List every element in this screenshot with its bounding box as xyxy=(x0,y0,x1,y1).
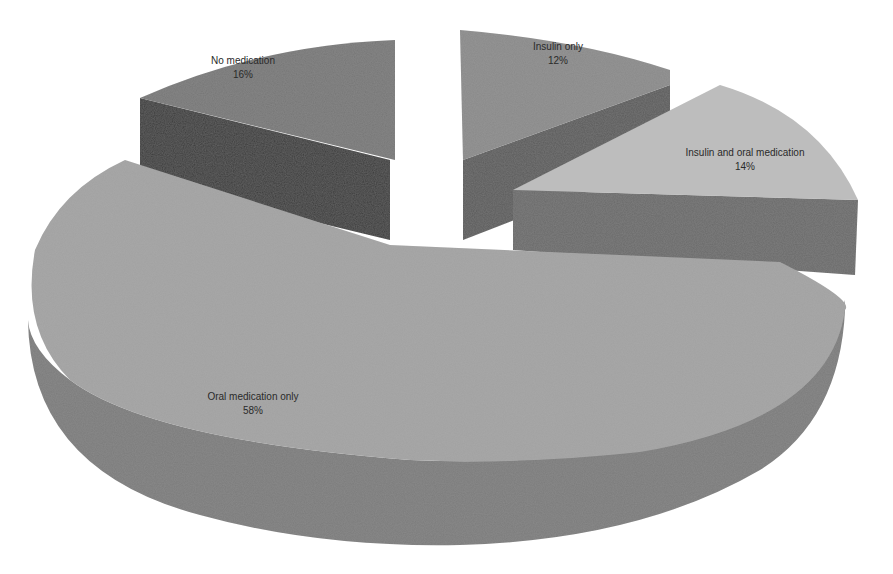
label-percent: 58% xyxy=(207,404,298,418)
label-name: Insulin only xyxy=(533,40,583,54)
pie-chart-3d xyxy=(0,0,893,574)
label-percent: 16% xyxy=(211,68,275,82)
label-name: Insulin and oral medication xyxy=(686,146,805,160)
label-insulin-and-oral: Insulin and oral medication 14% xyxy=(686,146,805,174)
label-name: Oral medication only xyxy=(207,390,298,404)
label-insulin-only: Insulin only 12% xyxy=(533,40,583,68)
label-percent: 14% xyxy=(686,160,805,174)
label-no-medication: No medication 16% xyxy=(211,54,275,82)
label-name: No medication xyxy=(211,54,275,68)
label-percent: 12% xyxy=(533,54,583,68)
label-oral-medication-only: Oral medication only 58% xyxy=(207,390,298,418)
